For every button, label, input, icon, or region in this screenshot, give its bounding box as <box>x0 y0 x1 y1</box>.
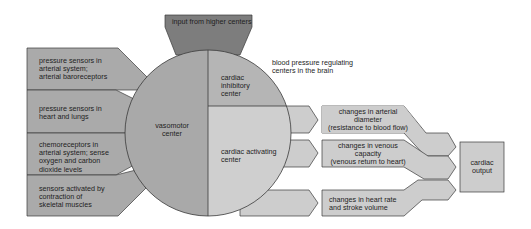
input1-line2: heart and lungs <box>39 113 102 121</box>
effect1-line3: (venous return to heart) <box>322 158 414 166</box>
activating-center-label: cardiac activating center <box>221 148 277 164</box>
input0-line3: arterial baroreceptors <box>39 73 107 81</box>
higher-centers-label: input from higher centers <box>172 18 252 26</box>
vasomotor-line2: center <box>152 130 192 138</box>
effect0-line3: (resistance to blood flow) <box>322 124 414 132</box>
cardiac-output-label: cardiac output <box>460 159 504 175</box>
input-label-chemoreceptors: chemoreceptors in arterial system; sense… <box>39 141 109 174</box>
effect-label-arterial: changes in arterial diameter (resistance… <box>322 108 414 133</box>
input-label-muscle-sensors: sensors activated by contraction of skel… <box>39 185 105 210</box>
effect-label-heart-rate: changes in heart rate and stroke volume <box>329 196 397 212</box>
brain-title-line2: centers in the brain <box>272 67 353 75</box>
inhibitory-center-label: cardiac inhibitory center <box>221 74 250 99</box>
activating-line2: center <box>221 156 277 164</box>
input-label-heart-lungs: pressure sensors in heart and lungs <box>39 105 102 121</box>
input3-line3: skeletal muscles <box>39 201 105 209</box>
effect2-line2: and stroke volume <box>329 204 397 212</box>
input2-line4: dioxide levels <box>39 166 109 174</box>
brain-title: blood pressure regulating centers in the… <box>272 59 353 75</box>
vasomotor-center-label: vasomotor center <box>152 122 192 138</box>
output-line2: output <box>460 167 504 175</box>
input-label-baroreceptors: pressure sensors in arterial system; art… <box>39 57 107 82</box>
inhibitory-line3: center <box>221 90 250 98</box>
effect-label-venous: changes in venous capacity (venous retur… <box>322 142 414 167</box>
